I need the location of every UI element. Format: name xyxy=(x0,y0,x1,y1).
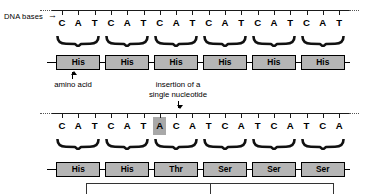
base-tick xyxy=(176,10,177,15)
strand-backbone xyxy=(52,10,349,11)
base-tick xyxy=(323,10,324,15)
dna-base: A xyxy=(316,16,330,30)
insertion-arrow-icon xyxy=(178,101,179,108)
protein-chain-mutated: HisHisThrSerSerSer xyxy=(0,162,368,182)
dna-base: A xyxy=(71,119,85,133)
frameshift-mutation-figure: DNA bases → CATCATCATCATCATCAT HisHisHis… xyxy=(0,0,368,194)
base-tick xyxy=(339,113,340,118)
dna-base: T xyxy=(234,16,248,30)
base-tick xyxy=(290,113,291,118)
base-tick xyxy=(192,10,193,15)
base-tick xyxy=(307,10,308,15)
base-tick xyxy=(62,10,63,15)
dna-base: T xyxy=(137,16,151,30)
altered-region-bracket-stem xyxy=(210,183,211,194)
strand-dotted-left xyxy=(40,10,52,11)
base-tick xyxy=(144,113,145,118)
base-tick xyxy=(307,113,308,118)
amino-acid-box: Ser xyxy=(301,162,345,177)
amino-acid-box: His xyxy=(56,162,100,177)
base-tick xyxy=(225,10,226,15)
base-tick xyxy=(323,113,324,118)
dna-base-inserted: A xyxy=(153,119,167,133)
amino-acid-box: Ser xyxy=(252,162,296,177)
base-tick xyxy=(258,10,259,15)
dna-base: C xyxy=(169,119,183,133)
codon-brace xyxy=(154,36,198,47)
dna-base: C xyxy=(300,16,314,30)
base-tick xyxy=(290,10,291,15)
base-tick xyxy=(78,10,79,15)
dna-base: A xyxy=(71,16,85,30)
amino-acid-box: Thr xyxy=(154,162,198,177)
codon-brace xyxy=(301,36,345,47)
dna-base: C xyxy=(218,119,232,133)
peptide-bond xyxy=(345,62,350,63)
amino-acid-box: His xyxy=(154,55,198,70)
peptide-bond xyxy=(47,169,56,170)
base-tick xyxy=(160,113,161,118)
base-tick xyxy=(192,113,193,118)
amino-acid-box: His xyxy=(105,162,149,177)
strand-dotted-right xyxy=(349,10,359,11)
codon-brace xyxy=(203,36,247,47)
dna-base: C xyxy=(202,16,216,30)
dna-base: C xyxy=(267,119,281,133)
base-tick xyxy=(258,113,259,118)
base-tick xyxy=(274,10,275,15)
dna-base: T xyxy=(251,119,265,133)
codon-brace xyxy=(105,139,149,150)
base-tick xyxy=(209,10,210,15)
codon-brace xyxy=(105,36,149,47)
dna-base: T xyxy=(202,119,216,133)
insertion-label-line1: insertion of a xyxy=(128,80,228,90)
amino-acid-box: Ser xyxy=(203,162,247,177)
dna-base: C xyxy=(104,16,118,30)
codon-brace xyxy=(252,36,296,47)
dna-base: A xyxy=(283,119,297,133)
dna-base: A xyxy=(169,16,183,30)
dna-base: T xyxy=(88,119,102,133)
base-tick xyxy=(62,113,63,118)
dna-base: C xyxy=(251,16,265,30)
amino-acid-arrow-icon xyxy=(72,72,73,79)
dna-base: T xyxy=(300,119,314,133)
amino-acid-box: His xyxy=(203,55,247,70)
base-tick xyxy=(95,113,96,118)
base-tick xyxy=(225,113,226,118)
peptide-bond xyxy=(47,62,56,63)
dna-base: C xyxy=(316,119,330,133)
dna-base: A xyxy=(218,16,232,30)
dna-base: T xyxy=(88,16,102,30)
base-tick xyxy=(78,113,79,118)
dna-base: A xyxy=(185,119,199,133)
base-tick xyxy=(111,10,112,15)
amino-acid-box: His xyxy=(301,55,345,70)
base-tick xyxy=(95,10,96,15)
codon-brace xyxy=(154,139,198,150)
amino-acid-label: amino acid xyxy=(40,80,106,90)
dna-base: C xyxy=(153,16,167,30)
base-tick xyxy=(241,10,242,15)
codon-brace xyxy=(56,36,100,47)
strand-dotted-left xyxy=(40,113,52,114)
protein-chain-normal: HisHisHisHisHisHis xyxy=(0,55,368,75)
base-tick xyxy=(127,113,128,118)
dna-base: A xyxy=(332,119,346,133)
dna-base: A xyxy=(120,119,134,133)
dna-base: C xyxy=(104,119,118,133)
base-tick xyxy=(111,113,112,118)
dna-base: T xyxy=(137,119,151,133)
amino-acid-box: His xyxy=(56,55,100,70)
dna-base: C xyxy=(55,119,69,133)
dna-base: A xyxy=(120,16,134,30)
peptide-bond xyxy=(345,169,350,170)
dna-base: T xyxy=(283,16,297,30)
strand-dotted-right xyxy=(349,113,359,114)
base-tick xyxy=(160,10,161,15)
dna-base: C xyxy=(55,16,69,30)
insertion-label-line2: single nucleotide xyxy=(128,90,228,100)
base-tick xyxy=(176,113,177,118)
amino-acid-box: His xyxy=(252,55,296,70)
base-tick xyxy=(209,113,210,118)
